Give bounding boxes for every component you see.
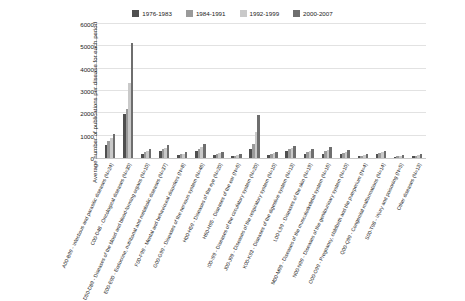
legend-label: 1976-1983 [142, 10, 172, 17]
x-axis-labels: A00-B99 - Infectious and parasitic disea… [96, 160, 426, 265]
x-label-slot: Other diseases (N=13) [408, 160, 426, 265]
y-tick-label: 6000 [80, 21, 94, 28]
y-tick-label: 5000 [80, 43, 94, 50]
chart-legend: 1976-19831984-19911992-19992000-2007 [0, 10, 465, 17]
legend-item: 2000-2007 [293, 10, 333, 17]
legend-swatch-icon [186, 10, 193, 17]
legend-label: 1992-1999 [250, 10, 280, 17]
bar-group [101, 24, 119, 158]
legend-item: 1984-1991 [186, 10, 226, 17]
bar [131, 43, 134, 158]
y-tick-label: 2000 [80, 110, 94, 117]
legend-item: 1992-1999 [240, 10, 280, 17]
y-tick-label: 3000 [80, 88, 94, 95]
legend-label: 2000-2007 [303, 10, 333, 17]
y-tick-label: 4000 [80, 65, 94, 72]
y-tick-label: 1000 [80, 132, 94, 139]
legend-swatch-icon [293, 10, 300, 17]
legend-swatch-icon [132, 10, 139, 17]
legend-label: 1984-1991 [196, 10, 226, 17]
legend-swatch-icon [240, 10, 247, 17]
legend-item: 1976-1983 [132, 10, 172, 17]
x-label-slot: S00-T98 - Injury and poisoning (N=5) [390, 160, 408, 265]
y-tick-label: 0 [91, 155, 94, 162]
